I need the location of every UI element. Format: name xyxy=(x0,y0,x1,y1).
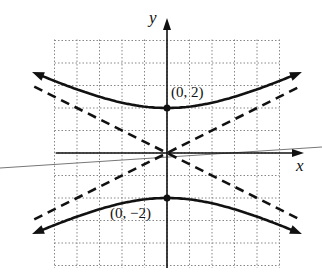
y-axis xyxy=(163,18,171,268)
y-axis-label: y xyxy=(149,8,157,28)
vertex-label-top: (0, 2) xyxy=(171,84,204,101)
vertex-point-bottom xyxy=(164,195,171,202)
vertex-label-bottom: (0, −2) xyxy=(110,205,151,222)
vertex-point-top xyxy=(164,105,171,112)
hyperbola-graph xyxy=(0,0,322,279)
x-axis-label: x xyxy=(296,156,304,176)
